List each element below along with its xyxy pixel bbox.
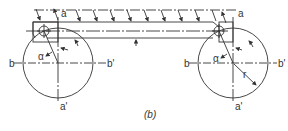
label-b-prime-left: b' [107,58,115,69]
left-crank [14,17,106,101]
mechanism-diagram: a a' b b' α a a' b b' α r (b) [0,0,288,131]
figure-caption: (b) [144,109,156,120]
label-alpha-right: α [213,53,219,64]
label-b-left: b [9,58,15,69]
label-a-right: a [238,8,244,19]
label-a-prime-right: a' [235,101,243,112]
label-a-prime-left: a' [60,101,68,112]
label-b-prime-right: b' [278,58,286,69]
label-a-left: a [61,8,67,19]
right-crank [189,17,277,101]
label-alpha-left: α [38,51,44,62]
label-b-right: b [184,58,190,69]
label-radius: r [243,69,247,80]
